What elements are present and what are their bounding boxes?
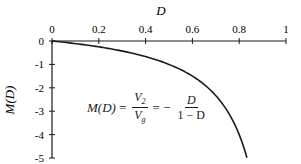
formula-equals-2: = − [153,100,171,116]
y-tick-label: -4 [35,129,45,141]
x-tick-label: 1 [283,23,289,35]
formula-equals-1: = [119,100,126,116]
formula-ratio-numerator: V2 [132,91,147,108]
formula-annotation: M(D) = V2 Vg = − D 1 − D [87,91,210,125]
y-tick-label: -5 [35,152,45,164]
x-tick-label: 0.4 [139,23,153,35]
y-axis-title: M(D) [2,86,17,116]
x-tick-label: 0.8 [232,23,246,35]
formula-duty-numerator: D [185,94,198,108]
y-tick-label: -2 [35,82,44,94]
formula-voltage-ratio: V2 Vg [132,91,147,125]
y-tick-label: 0 [39,35,45,47]
x-tick-label: 0 [49,23,55,35]
formula-ratio-denominator: Vg [132,108,147,124]
chart-canvas: 00.20.40.60.81 0-1-2-3-4-5 D M(D) [0,0,301,164]
x-axis-title: D [155,3,166,18]
y-tick-label: -1 [35,58,44,70]
formula-duty-fraction: D 1 − D [176,94,207,121]
formula-lhs: M(D) [87,100,116,116]
y-tick-label: -3 [35,105,45,117]
x-tick-label: 0.2 [92,23,106,35]
formula-duty-denominator: 1 − D [176,108,207,121]
x-tick-label: 0.6 [186,23,200,35]
